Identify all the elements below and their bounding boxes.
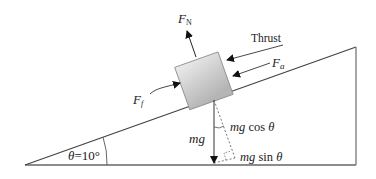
normal-force-arrow: [187, 31, 196, 57]
parallel-component-dashed: [214, 158, 235, 163]
applied-force-arrow: [233, 63, 270, 76]
perp-component-label: mg cos θ: [230, 120, 274, 134]
theta-arc-small: [214, 126, 224, 128]
angle-label: θ=10°: [68, 148, 100, 163]
weight-label: mg: [189, 131, 205, 146]
friction-force-arrow: [150, 83, 180, 94]
normal-force-label: FN: [177, 11, 192, 27]
block: [175, 52, 233, 110]
incline-diagram: θ=10° FN Thrust Fa Ff mg mg cos θ mg sin…: [0, 0, 376, 179]
parallel-component-label: mg sin θ: [240, 150, 282, 164]
thrust-label: Thrust: [251, 32, 282, 44]
friction-force-label: Ff: [132, 92, 145, 108]
right-angle-marker: [224, 151, 231, 160]
applied-force-label: Fa: [271, 55, 285, 71]
angle-arc: [103, 137, 107, 165]
